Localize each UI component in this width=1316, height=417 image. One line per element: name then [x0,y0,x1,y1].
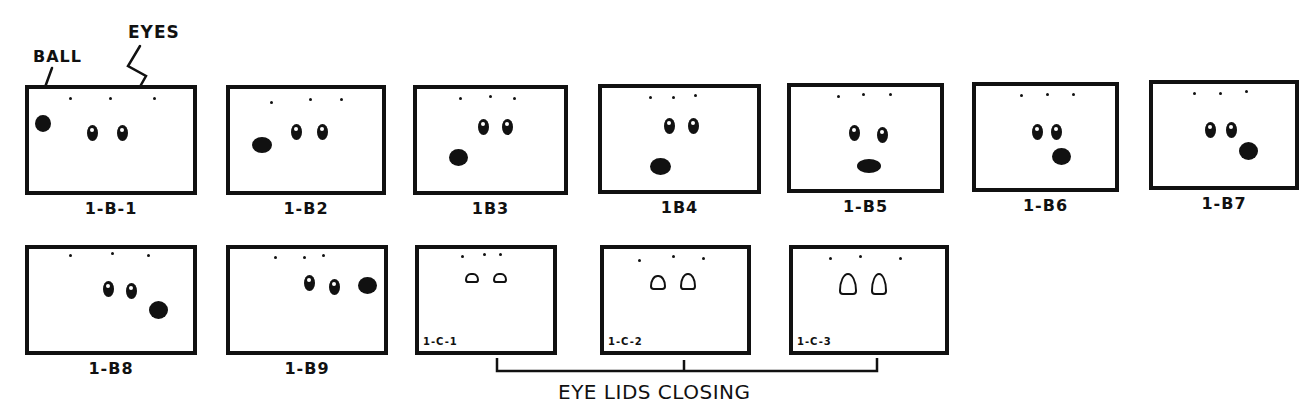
eye-lids-closing-label: EYE LIDS CLOSING [558,380,751,404]
eye-lids-bracket [0,0,1316,417]
